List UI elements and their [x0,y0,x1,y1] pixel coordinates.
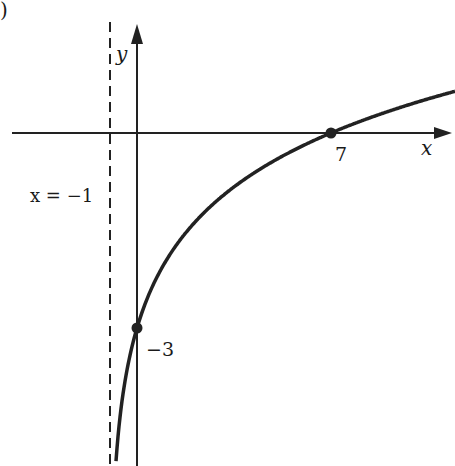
y-axis-arrow-icon [131,24,143,44]
x-intercept-label: 7 [335,143,347,165]
corner-label: ) [0,0,8,22]
graph: ) y x 7 x = −1 −3 [0,0,455,466]
plot-area [0,0,455,466]
y-axis-label: y [116,42,127,66]
x-axis-arrow-icon [434,127,452,139]
x-intercept-point [326,128,337,139]
y-intercept-point [132,323,143,334]
y-intercept-label: −3 [146,338,174,360]
curve [116,91,455,461]
asymptote-label: x = −1 [30,185,93,206]
x-axis-label: x [421,136,432,160]
